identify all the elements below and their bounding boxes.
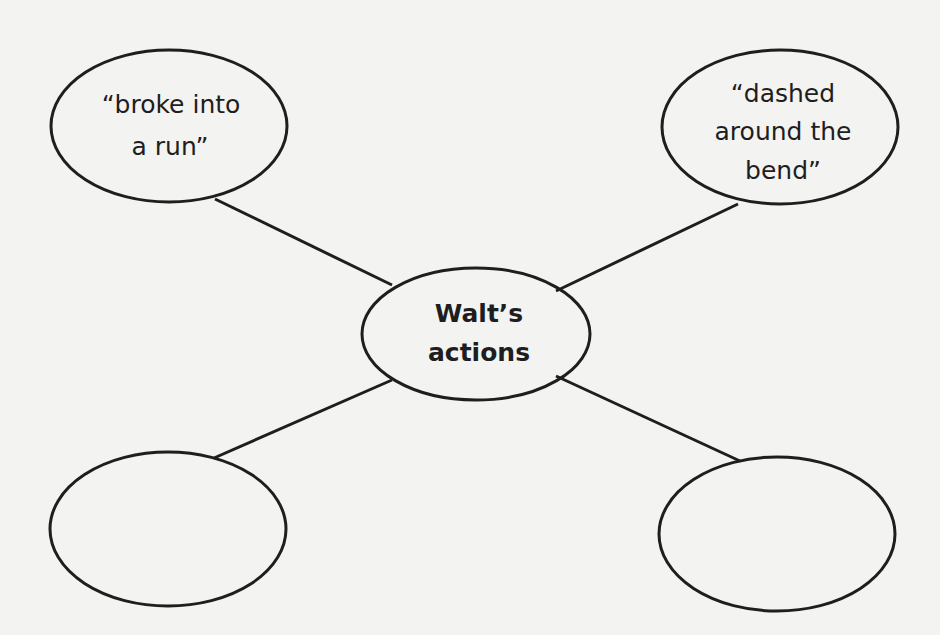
node-top-right-line-3: bend” bbox=[745, 156, 821, 185]
node-top-left: “broke into a run” bbox=[51, 50, 287, 202]
connector-bottom-right bbox=[556, 376, 740, 461]
node-bottom-right bbox=[659, 457, 895, 611]
web-diagram: “broke into a run” “dashed around the be… bbox=[0, 0, 940, 635]
node-top-left-line-2: a run” bbox=[132, 132, 209, 161]
connector-top-left bbox=[215, 199, 392, 285]
node-top-left-line-1: “broke into bbox=[102, 90, 241, 119]
node-center-ellipse bbox=[362, 268, 590, 400]
node-center-line-2: actions bbox=[428, 338, 530, 367]
node-bottom-left-ellipse bbox=[50, 452, 286, 606]
node-top-left-ellipse bbox=[51, 50, 287, 202]
node-center: Walt’s actions bbox=[362, 268, 590, 400]
connector-top-right bbox=[556, 204, 738, 291]
node-top-right-line-2: around the bbox=[715, 117, 852, 146]
node-top-right-line-1: “dashed bbox=[731, 79, 835, 108]
connectors bbox=[214, 199, 740, 461]
node-bottom-right-ellipse bbox=[659, 457, 895, 611]
node-top-right: “dashed around the bend” bbox=[662, 50, 898, 204]
connector-bottom-left bbox=[214, 380, 392, 458]
node-bottom-left bbox=[50, 452, 286, 606]
node-center-line-1: Walt’s bbox=[435, 299, 523, 328]
